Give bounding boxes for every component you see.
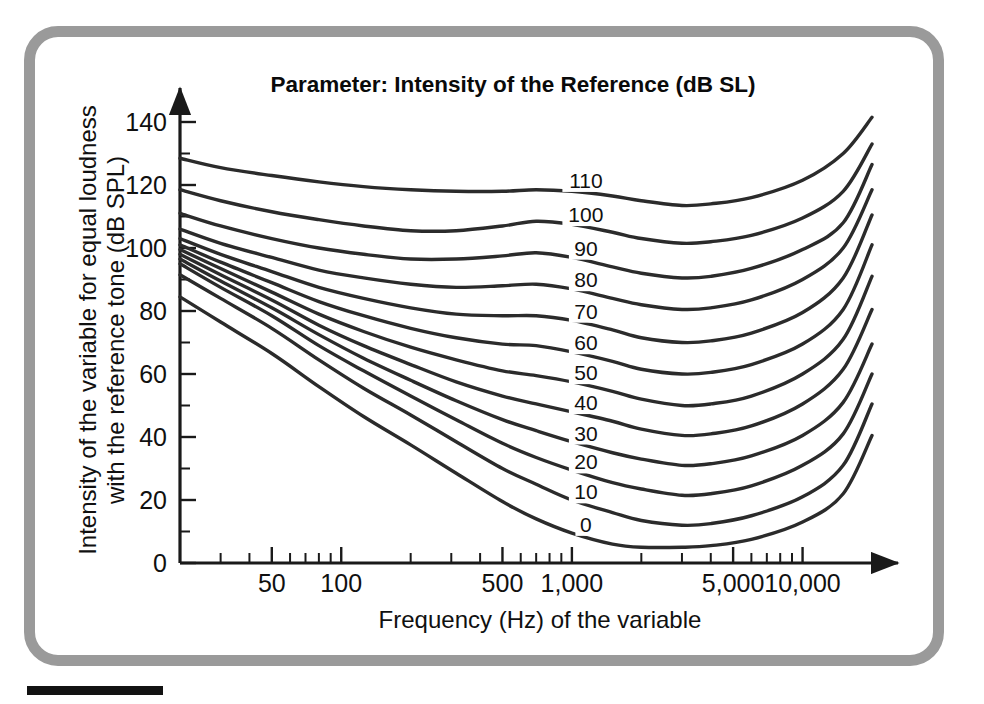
contour-curve: [180, 190, 872, 310]
x-tick-label: 1,000: [541, 569, 604, 597]
x-tick-label: 5,000: [702, 569, 765, 597]
y-tick-label: 100: [125, 234, 167, 262]
contour-label: 50: [574, 361, 597, 384]
contour-label: 70: [574, 300, 597, 323]
y-axis-title-line1: Intensity of the variable for equal loud…: [74, 105, 101, 555]
x-tick-label: 500: [482, 569, 524, 597]
contour-label: 80: [574, 268, 597, 291]
x-tick-label: 50: [258, 569, 286, 597]
contour-label: 20: [574, 450, 597, 473]
y-tick-label: 140: [125, 108, 167, 136]
x-tick-label: 10,000: [764, 569, 840, 597]
contour-label: 10: [574, 480, 597, 503]
y-tick-label: 120: [125, 171, 167, 199]
equal-loudness-chart: 020406080100120140 501005001,0005,00010,…: [0, 0, 984, 704]
y-tick-label: 40: [139, 423, 167, 451]
contour-label: 100: [568, 203, 603, 226]
contour-label: 110: [569, 169, 602, 192]
contour-label: 0: [580, 513, 592, 536]
contour-curve: [180, 117, 872, 205]
contour-label: 40: [574, 391, 597, 414]
x-tick-labels: 501005001,0005,00010,000: [258, 569, 841, 597]
y-tick-labels: 020406080100120140: [125, 108, 167, 577]
y-tick-label: 0: [153, 549, 167, 577]
x-axis-title: Frequency (Hz) of the variable: [379, 606, 702, 633]
y-tick-label: 60: [139, 360, 167, 388]
contour-curves: [180, 117, 872, 547]
contour-label: 90: [574, 237, 597, 260]
chart-title: Parameter: Intensity of the Reference (d…: [270, 72, 755, 97]
y-axis-title-line2: with the reference tone (dB SPL): [102, 156, 129, 505]
contour-label: 60: [574, 331, 597, 354]
x-tick-label: 100: [320, 569, 362, 597]
bottom-rule-bar: [27, 686, 163, 695]
y-tick-label: 80: [139, 297, 167, 325]
chart-svg: 020406080100120140 501005001,0005,00010,…: [0, 0, 984, 704]
y-tick-label: 20: [139, 486, 167, 514]
axis-ticks: [180, 122, 872, 563]
contour-label: 30: [574, 422, 597, 445]
